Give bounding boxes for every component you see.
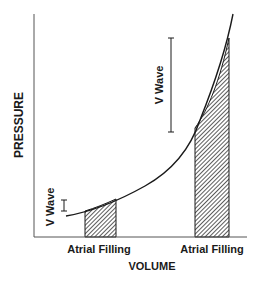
y-axis-label: PRESSURE [12, 92, 26, 158]
atrial-filling-label-left: Atrial Filling [67, 243, 131, 255]
v-wave-label-low: V Wave [44, 188, 56, 227]
atrial-filling-area-right [195, 38, 229, 237]
v-wave-bar-low [61, 200, 67, 211]
atrial-filling-label-right: Atrial Filling [180, 243, 244, 255]
pressure-volume-diagram: V Wave V Wave PRESSURE Atrial Filling At… [0, 0, 257, 283]
v-wave-bar-high [168, 38, 174, 132]
atrial-filling-area-left [85, 199, 116, 237]
x-axis-label: VOLUME [128, 260, 175, 272]
v-wave-label-high: V Wave [153, 66, 165, 105]
